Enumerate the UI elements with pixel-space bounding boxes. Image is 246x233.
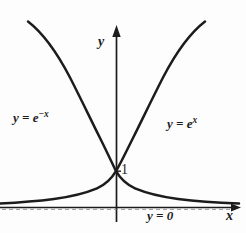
y-axis-label: y (98, 35, 104, 49)
label-curve-exp-neg-x-base: y = e (13, 110, 38, 125)
curve-exp-neg-x (28, 22, 239, 204)
x-axis-label: x (226, 209, 233, 223)
label-curve-exp-x-base: y = e (167, 116, 192, 131)
asymptote-label: y = 0 (147, 209, 173, 222)
y-axis-arrowhead (112, 25, 120, 37)
label-curve-exp-neg-x: y = e−x (13, 110, 49, 124)
y-intercept-label: 1 (121, 163, 128, 177)
label-curve-exp-neg-x-exponent: −x (38, 109, 48, 119)
label-curve-exp-x: y = ex (167, 116, 197, 130)
exponential-functions-figure: y = e−x y = ex y x 1 y = 0 (0, 0, 246, 233)
label-curve-exp-x-exponent: x (192, 115, 197, 125)
